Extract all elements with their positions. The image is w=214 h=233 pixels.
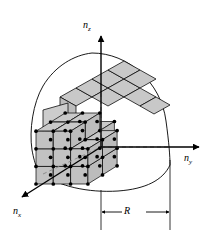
lattice-point [95, 155, 99, 159]
lattice-point [49, 155, 53, 159]
lattice-point [34, 147, 38, 151]
lattice-point [49, 120, 53, 124]
lattice-point [98, 164, 102, 168]
axis-label-nz: nz [83, 19, 91, 33]
ndistribution-octant-figure [0, 0, 214, 233]
lattice-point [113, 155, 117, 159]
lattice-point [86, 147, 90, 151]
lattice-point [69, 147, 73, 151]
dimension-R [101, 160, 170, 230]
lattice-point [49, 173, 53, 177]
lattice-point [49, 138, 53, 142]
lattice-point [83, 173, 87, 177]
lattice-point [51, 165, 55, 169]
lattice-point [113, 137, 117, 141]
lattice-point [95, 120, 99, 124]
lattice-point [115, 129, 119, 133]
dimension-label-R: R [124, 205, 130, 216]
lattice-point [69, 182, 73, 186]
lattice-point [95, 137, 99, 141]
lattice-point [83, 138, 87, 142]
lattice-point [81, 111, 85, 115]
lattice-point [81, 146, 85, 150]
lattice-point [34, 182, 38, 186]
lattice-point [101, 173, 105, 177]
lattice-point [51, 129, 55, 133]
lattice-point [51, 147, 55, 151]
lattice-point [115, 164, 119, 168]
lattice-point [78, 137, 82, 141]
lattice-point [78, 120, 82, 124]
lattice-point [69, 129, 73, 133]
lattice-point [83, 120, 87, 124]
lattice-point [34, 165, 38, 169]
lattice-point [81, 164, 85, 168]
lattice-point [63, 129, 67, 133]
axis-label-nx: nx [13, 205, 21, 219]
lattice-point [66, 120, 70, 124]
lattice-point [51, 182, 55, 186]
lattice-point [113, 120, 117, 124]
lattice-point [34, 129, 38, 133]
lattice-point [66, 173, 70, 177]
lattice-point [66, 155, 70, 159]
lattice-point [86, 182, 90, 186]
lattice-point [101, 155, 105, 159]
lattice-point [63, 146, 67, 150]
lattice-point [81, 129, 85, 133]
lattice-point [63, 111, 67, 115]
axis-label-ny: ny [184, 152, 192, 166]
lattice-point [86, 165, 90, 169]
lattice-point [66, 138, 70, 142]
